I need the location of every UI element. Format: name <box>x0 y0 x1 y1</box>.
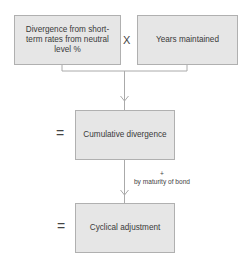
equals-operator-2: = <box>57 218 65 234</box>
years-maintained-label: Years maintained <box>156 35 219 45</box>
divergence-label: Divergence from short-term rates from ne… <box>23 25 112 55</box>
plus-symbol: + <box>132 170 192 178</box>
cyclical-adjustment-label: Cyclical adjustment <box>90 223 161 233</box>
years-maintained-box: Years maintained <box>137 15 238 65</box>
maturity-annotation: by maturity of bond <box>132 178 192 186</box>
cumulative-divergence-label: Cumulative divergence <box>83 130 166 140</box>
divergence-box: Divergence from short-term rates from ne… <box>14 15 121 65</box>
equals-operator-1: = <box>56 125 64 141</box>
multiply-operator: X <box>123 34 130 46</box>
cyclical-adjustment-box: Cyclical adjustment <box>75 203 175 253</box>
cumulative-divergence-box: Cumulative divergence <box>75 110 175 160</box>
